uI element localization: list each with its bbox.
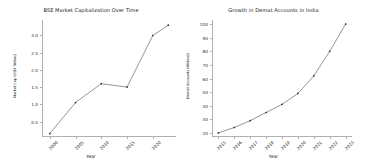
chart-panel-demat-accounts: Growth in Demat Accounts in India Demat … xyxy=(182,0,365,162)
x-tick-mark xyxy=(266,137,267,139)
data-point-marker xyxy=(167,24,169,26)
y-tick-label: 0.5 xyxy=(31,119,38,124)
chart-panel-bse-market-cap: BSE Market Capitalization Over Time Mark… xyxy=(0,0,182,162)
y-tick-label: 1.0 xyxy=(31,102,38,107)
y-tick-label: 1.5 xyxy=(31,85,38,90)
x-axis-label: Year xyxy=(0,154,182,159)
data-series-line xyxy=(42,20,176,137)
x-tick-label: 2015 xyxy=(125,140,136,151)
data-series-line xyxy=(212,20,352,137)
x-tick-label: 2020 xyxy=(151,140,162,151)
y-tick-label: 3.0 xyxy=(31,33,38,38)
x-tick-mark xyxy=(101,137,102,139)
x-tick-label: 2016 xyxy=(232,140,243,151)
data-point-marker xyxy=(75,102,77,104)
y-tick-label: 90 xyxy=(202,35,207,40)
data-point-marker xyxy=(313,75,315,77)
x-tick-mark xyxy=(314,137,315,139)
data-point-marker xyxy=(49,133,51,135)
x-tick-mark xyxy=(298,137,299,139)
y-tick-label: 40 xyxy=(202,103,207,108)
data-point-marker xyxy=(297,93,299,95)
x-tick-label: 2015 xyxy=(216,140,227,151)
x-tick-label: 2017 xyxy=(248,140,259,151)
x-tick-mark xyxy=(218,137,219,139)
data-point-marker xyxy=(249,120,251,122)
y-axis-label: Market Cap (USD Trillion) xyxy=(13,38,17,114)
data-point-marker xyxy=(345,23,347,25)
data-point-marker xyxy=(329,50,331,52)
x-tick-label: 2022 xyxy=(328,140,339,151)
x-tick-mark xyxy=(50,137,51,139)
data-point-marker xyxy=(218,132,220,134)
x-axis-label: Year xyxy=(182,154,365,159)
data-point-marker xyxy=(233,127,235,129)
x-tick-label: 2019 xyxy=(280,140,291,151)
x-tick-mark xyxy=(127,137,128,139)
x-tick-mark xyxy=(76,137,77,139)
y-tick-label: 100 xyxy=(200,22,208,27)
x-tick-mark xyxy=(153,137,154,139)
x-tick-label: 2010 xyxy=(99,140,110,151)
x-tick-label: 2021 xyxy=(312,140,323,151)
data-point-marker xyxy=(152,35,154,37)
y-tick-label: 20 xyxy=(202,130,207,135)
y-tick-label: 2.0 xyxy=(31,67,38,72)
x-tick-label: 2020 xyxy=(296,140,307,151)
x-tick-mark xyxy=(282,137,283,139)
y-tick-label: 80 xyxy=(202,49,207,54)
data-point-marker xyxy=(281,104,283,106)
y-tick-label: 30 xyxy=(202,117,207,122)
plot-area: 2030405060708090100 20152016201720182019… xyxy=(212,20,352,137)
y-axis-label: Demat Accounts (Millions) xyxy=(186,38,190,114)
x-tick-label: 2000 xyxy=(48,140,59,151)
x-tick-label: 2005 xyxy=(73,140,84,151)
figure-canvas: BSE Market Capitalization Over Time Mark… xyxy=(0,0,365,162)
x-tick-mark xyxy=(346,137,347,139)
x-tick-mark xyxy=(330,137,331,139)
x-tick-label: 2018 xyxy=(264,140,275,151)
chart-title: BSE Market Capitalization Over Time xyxy=(0,7,182,13)
data-point-marker xyxy=(100,83,102,85)
x-tick-label: 2023 xyxy=(343,140,354,151)
x-tick-mark xyxy=(250,137,251,139)
y-tick-label: 50 xyxy=(202,90,207,95)
data-point-marker xyxy=(265,112,267,114)
series-line xyxy=(50,25,169,133)
chart-title: Growth in Demat Accounts in India xyxy=(182,7,365,13)
data-point-marker xyxy=(126,86,128,88)
plot-area: 0.51.01.52.02.53.0 20002005201020152020 xyxy=(42,20,176,137)
y-tick-label: 2.5 xyxy=(31,50,38,55)
y-tick-label: 70 xyxy=(202,62,207,67)
y-tick-label: 60 xyxy=(202,76,207,81)
series-line xyxy=(218,24,345,133)
x-tick-mark xyxy=(234,137,235,139)
